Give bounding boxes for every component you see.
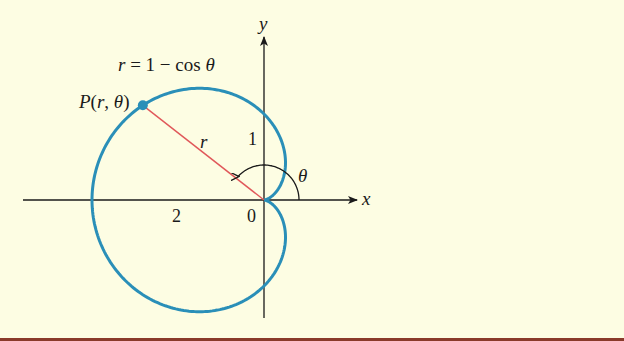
cardioid-diagram: r = 1 − cos θ P(r, θ) r θ x y 1 2 0 (0, 0, 624, 341)
point-label: P(r, θ) (78, 91, 130, 113)
tick-label-1: 1 (248, 129, 257, 149)
x-axis-label: x (361, 188, 371, 209)
point-p-marker (138, 100, 148, 110)
y-axis-label: y (257, 13, 268, 34)
tick-label-origin: 0 (247, 206, 256, 226)
theta-angle-arc (238, 165, 299, 200)
equation-label: r = 1 − cos θ (118, 54, 215, 75)
theta-label: θ (298, 165, 307, 186)
radius-line (143, 105, 264, 200)
radius-label: r (200, 131, 208, 152)
tick-label-2: 2 (172, 206, 181, 226)
